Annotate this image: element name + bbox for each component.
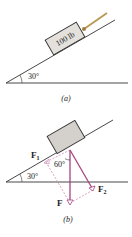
block-b [47,120,85,153]
caption-a: (a) [61,94,71,103]
label-f2: F2 [98,184,107,195]
figure-a: 30° 100 lb (a) [6,13,128,103]
angle-arc-a [20,75,22,83]
label-f: F [57,198,63,208]
rope-knot-icon [82,27,86,31]
incline-line-a [6,20,115,83]
angle-arc-60 [65,159,70,160]
caption-b: (b) [63,215,73,224]
arrowhead-f2-icon [89,186,95,191]
dashed-f2-to-f [70,190,93,203]
block-a: 100 lb [45,22,85,55]
figure-b: 30° 60° F1 F2 F (b) [6,120,128,224]
angle-label-60: 60° [54,160,65,169]
label-f1: F1 [31,150,40,161]
angle-label-30-a: 30° [28,72,39,81]
figure-canvas: 30° 100 lb (a) 30° 60° F1 F2 F (b [0,0,132,237]
angle-arc-b [20,174,22,182]
arrowhead-f-icon [67,200,73,205]
angle-label-30-b: 30° [27,172,38,181]
